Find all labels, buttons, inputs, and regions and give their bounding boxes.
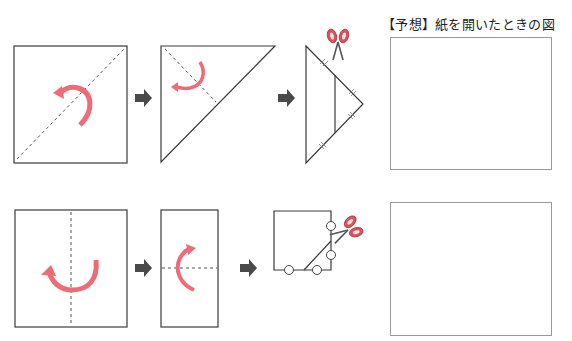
scissors-icon [326,213,366,250]
step-arrow-icon [135,259,152,277]
step3-folded-triangle [306,28,363,163]
step-arrow-icon [135,89,152,107]
step1-square-vertical [15,210,127,327]
scissors-icon [326,28,350,60]
cut-tick-marks [319,59,356,149]
fold-arrow-icon [53,86,90,125]
prediction-box-2[interactable] [390,202,552,336]
step1-square-diagonal [14,46,127,163]
step2-triangle [161,46,275,162]
fold-arrow-icon [178,244,196,290]
step-arrow-icon [278,89,295,107]
cut-circle-markers [285,222,336,275]
prediction-box-1[interactable] [390,37,552,170]
step3-folded-square [274,211,366,275]
fold-arrow-icon [171,62,203,92]
prediction-title: 【予想】紙を開いたときの図 [382,14,555,33]
fold-arrow-icon [41,260,96,290]
step-arrow-icon [240,259,257,277]
step2-rectangle [161,210,218,327]
